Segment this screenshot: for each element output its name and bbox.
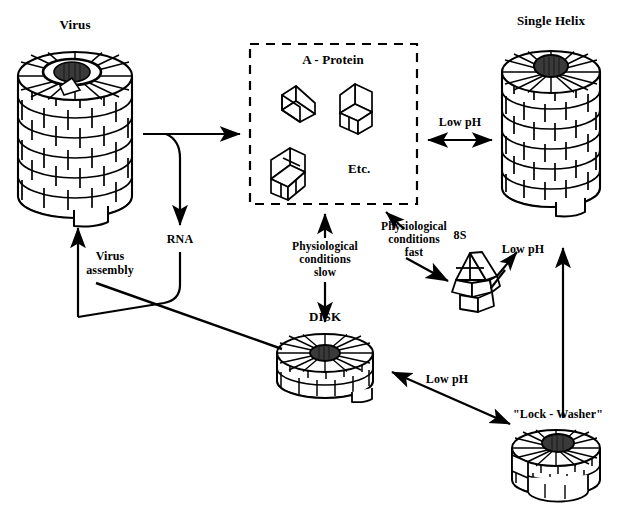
label-virus-assembly-line1: Virus — [86, 250, 133, 264]
label-physiological-slow-line3: slow — [292, 266, 358, 279]
line-disk-to-assembly — [96, 283, 282, 349]
label-physiological-fast-line1: Physiological — [381, 220, 447, 233]
arrow-aprotein-to-8s — [406, 258, 448, 281]
label-low-ph-8s-helix: Low pH — [502, 243, 544, 256]
label-8s: 8S — [454, 229, 467, 242]
label-virus: Virus — [59, 18, 90, 33]
lock-washer-graphic — [512, 430, 600, 502]
single-helix-cylinder-graphic — [502, 51, 600, 216]
eight-s-particle-graphic — [452, 252, 500, 312]
label-physiological-slow-line2: conditions — [292, 253, 358, 266]
disk-graphic — [277, 334, 373, 402]
label-etc: Etc. — [348, 162, 370, 177]
label-virus-assembly-line2: assembly — [86, 264, 133, 278]
label-low-ph-aprotein-helix: Low pH — [439, 116, 481, 129]
label-low-ph-disk-lockwasher: Low pH — [426, 373, 468, 386]
virus-cylinder-graphic — [18, 52, 132, 226]
label-physiological-slow-line1: Physiological — [292, 240, 358, 253]
arrow-virus-to-rna — [166, 134, 180, 225]
label-single-helix: Single Helix — [517, 14, 585, 29]
label-physiological-fast-line3: fast — [381, 246, 447, 259]
label-lock-washer: "Lock - Washer" — [513, 408, 603, 421]
label-physiological-fast: Physiological conditions fast — [381, 220, 447, 259]
label-physiological-slow: Physiological conditions slow — [292, 240, 358, 279]
label-physiological-fast-line2: conditions — [381, 233, 447, 246]
a-protein-box-graphic — [250, 44, 417, 204]
label-virus-assembly: Virus assembly — [86, 250, 133, 277]
label-disk: DISK — [309, 310, 341, 325]
label-a-protein: A - Protein — [302, 53, 364, 68]
label-rna: RNA — [167, 233, 193, 246]
diagram-canvas: Virus A - Protein Etc. Single Helix 8S D… — [0, 0, 638, 527]
